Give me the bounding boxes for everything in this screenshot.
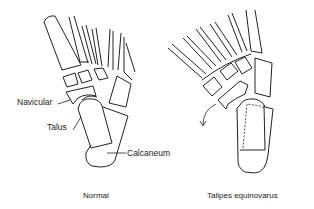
clubfoot-cuneiform-2 — [220, 63, 238, 80]
clubfoot-metatarsal-6 — [246, 10, 262, 53]
clubfoot — [168, 10, 273, 173]
normal-cuneiform-2 — [78, 70, 92, 83]
normal-metatarsal-5 — [108, 29, 113, 70]
normal-metatarsal-6 — [118, 33, 135, 80]
normal-cuneiform-3 — [94, 68, 108, 80]
caption-normal: Normal — [83, 192, 109, 200]
caption-talipes-equinovarus: Talipes equinovarus — [207, 192, 278, 200]
navicular-leader — [58, 100, 70, 104]
label-calcaneum: Calcaneum — [127, 149, 170, 158]
clubfoot-navicular — [218, 81, 248, 109]
label-talus: Talus — [47, 123, 67, 132]
normal-cuboid — [109, 76, 131, 107]
normal-metatarsal-4 — [92, 28, 102, 66]
clubfoot-calcaneum — [237, 99, 273, 173]
normal-cuneiform-1 — [63, 73, 78, 87]
rotation-arrow — [203, 104, 216, 125]
clubfoot-cuneiform-1 — [203, 77, 222, 96]
normal-metatarsal-3 — [82, 25, 96, 64]
normal-talus — [78, 99, 112, 148]
normal-calcaneum — [86, 107, 128, 167]
clubfoot-talus-dashed — [243, 104, 264, 148]
talus-leader — [73, 117, 81, 130]
clubfoot-cuboid — [255, 58, 272, 97]
label-navicular: Navicular — [17, 98, 52, 107]
normal-foot — [44, 16, 135, 167]
